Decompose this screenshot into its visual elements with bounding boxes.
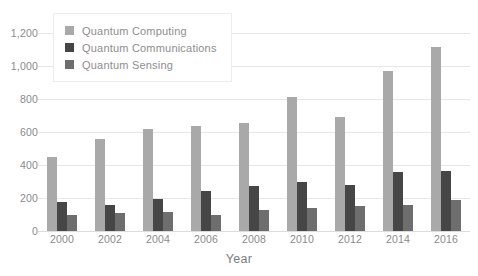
bar	[163, 212, 173, 231]
x-tick-label: 2000	[38, 233, 86, 245]
bar	[201, 191, 211, 231]
x-tick-label: 2006	[182, 233, 230, 245]
bar	[105, 205, 115, 231]
legend-label: Quantum Communications	[82, 42, 217, 54]
bar	[57, 202, 67, 231]
bar	[239, 123, 249, 231]
bar	[393, 172, 403, 231]
bar	[47, 157, 57, 231]
legend-label: Quantum Computing	[82, 25, 187, 37]
bar	[115, 213, 125, 231]
bar-group-2010	[278, 33, 326, 231]
bar-group-2008	[230, 33, 278, 231]
bar	[67, 215, 77, 231]
bar	[355, 206, 365, 231]
y-tick-label: 400	[0, 159, 38, 171]
bar	[345, 185, 355, 231]
legend-item[interactable]: Quantum Communications	[65, 39, 217, 56]
x-tick-label: 2010	[278, 233, 326, 245]
bar	[383, 71, 393, 231]
bar-group-2014	[374, 33, 422, 231]
bar	[297, 182, 307, 232]
legend-label: Quantum Sensing	[82, 59, 173, 71]
legend-swatch-icon	[65, 26, 74, 35]
bar	[143, 129, 153, 231]
x-tick-label: 2012	[326, 233, 374, 245]
legend-item[interactable]: Quantum Computing	[65, 22, 217, 39]
bar	[211, 215, 221, 232]
bar	[441, 171, 451, 231]
legend-item[interactable]: Quantum Sensing	[65, 56, 217, 73]
bar	[403, 205, 413, 231]
bar	[259, 210, 269, 231]
bar-group-2016	[422, 33, 470, 231]
bar	[451, 200, 461, 231]
y-tick-label: 600	[0, 126, 38, 138]
y-tick-label: 1,000	[0, 60, 38, 72]
bar	[431, 47, 441, 231]
bar-group-2012	[326, 33, 374, 231]
y-tick-label: 200	[0, 192, 38, 204]
gridline-0	[38, 231, 470, 232]
x-tick-label: 2008	[230, 233, 278, 245]
bar	[307, 208, 317, 231]
x-tick-label: 2014	[374, 233, 422, 245]
bar	[287, 97, 297, 231]
y-tick-label: 1,200	[0, 27, 38, 39]
legend-swatch-icon	[65, 60, 74, 69]
x-tick-label: 2004	[134, 233, 182, 245]
chart-legend: Quantum ComputingQuantum CommunicationsQ…	[53, 13, 232, 82]
y-tick-label: 800	[0, 93, 38, 105]
bar	[335, 117, 345, 231]
x-tick-label: 2002	[86, 233, 134, 245]
y-tick-label: 0	[0, 225, 38, 237]
bar	[95, 139, 105, 231]
bar	[249, 186, 259, 231]
x-axis: 200020022004200620082010201220142016	[38, 233, 470, 251]
bar	[153, 199, 163, 231]
x-axis-title: Year	[0, 252, 478, 266]
bar	[191, 126, 201, 231]
x-tick-label: 2016	[422, 233, 470, 245]
bar-chart: 02004006008001,0001,200 2000200220042006…	[0, 0, 478, 276]
legend-swatch-icon	[65, 43, 74, 52]
